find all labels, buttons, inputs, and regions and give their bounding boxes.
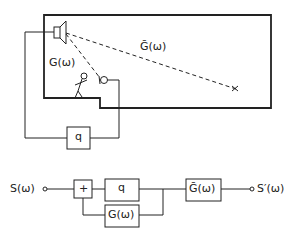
output-label: S′(ω) xyxy=(257,183,284,194)
diagram-canvas xyxy=(0,0,305,252)
input-label: S(ω) xyxy=(10,183,35,194)
feedback-label: G(ω) xyxy=(108,209,134,220)
talker-figure-icon xyxy=(75,73,87,98)
path-label: Ḡ(ω) xyxy=(189,183,215,194)
gbar-label-room: Ḡ(ω) xyxy=(140,41,166,52)
g-label-room: G(ω) xyxy=(49,57,75,68)
amp-loop-wire xyxy=(25,32,119,138)
room-outline xyxy=(44,15,271,108)
gain-label: q xyxy=(118,182,125,193)
sum-label: + xyxy=(79,183,88,194)
loudspeaker-icon xyxy=(54,21,66,44)
microphone-icon xyxy=(99,76,119,138)
amp-label-room: q xyxy=(75,131,82,142)
